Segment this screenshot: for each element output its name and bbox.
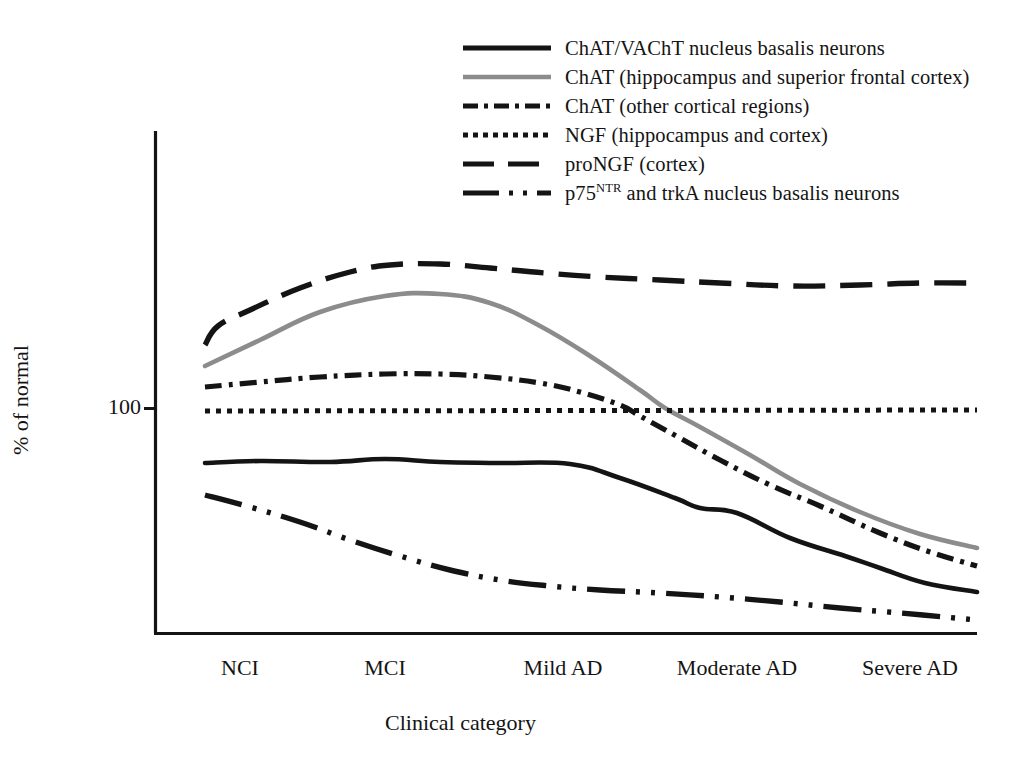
x-axis-title: Clinical category: [0, 710, 1021, 736]
legend-item-chat-vacht: ChAT/VAChT nucleus basalis neurons: [463, 33, 983, 62]
legend-label-prongf: proNGF (cortex): [565, 153, 705, 175]
legend-label-p75ntr-trka: p75NTR and trkA nucleus basalis neurons: [565, 182, 900, 204]
chart-legend: ChAT/VAChT nucleus basalis neurons ChAT …: [463, 33, 983, 207]
legend-swatch-dash-dot-dot: [463, 184, 551, 202]
legend-item-prongf: proNGF (cortex): [463, 149, 983, 178]
legend-swatch-dash-dot: [463, 97, 551, 115]
y-axis-tick-label-100: 100: [108, 394, 141, 420]
legend-swatch-solid-black: [463, 39, 551, 57]
legend-label-chat-vacht: ChAT/VAChT nucleus basalis neurons: [565, 37, 885, 59]
figure-root: ChAT/VAChT nucleus basalis neurons ChAT …: [0, 0, 1021, 777]
x-axis-tick-label: Mild AD: [524, 655, 603, 681]
legend-label-ngf: NGF (hippocampus and cortex): [565, 124, 828, 146]
legend-swatch-long-dash: [463, 155, 551, 173]
legend-label-chat-hippocampus: ChAT (hippocampus and superior frontal c…: [565, 66, 969, 88]
series-line-4: [205, 264, 977, 345]
legend-swatch-solid-gray: [463, 68, 551, 86]
y-axis-title: % of normal: [8, 345, 34, 455]
legend-label-chat-other-cortical: ChAT (other cortical regions): [565, 95, 809, 117]
legend-item-p75ntr-trka: p75NTR and trkA nucleus basalis neurons: [463, 178, 983, 207]
legend-item-chat-hippocampus: ChAT (hippocampus and superior frontal c…: [463, 62, 983, 91]
x-axis-tick-label: MCI: [364, 655, 406, 681]
series-line-3: [205, 410, 977, 411]
x-axis-tick-label: Moderate AD: [677, 655, 797, 681]
series-line-1: [205, 293, 977, 548]
legend-item-ngf: NGF (hippocampus and cortex): [463, 120, 983, 149]
x-axis-tick-label: NCI: [221, 655, 259, 681]
series-group: [205, 264, 977, 620]
legend-item-chat-other-cortical: ChAT (other cortical regions): [463, 91, 983, 120]
x-axis-title-text: Clinical category: [385, 710, 536, 736]
x-axis-tick-label: Severe AD: [862, 655, 958, 681]
legend-swatch-dotted: [463, 126, 551, 144]
